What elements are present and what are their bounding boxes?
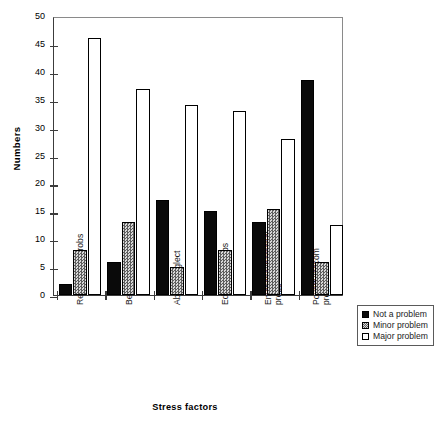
bar — [59, 284, 73, 295]
legend-item: Minor problem — [362, 321, 428, 330]
legend-swatch-icon — [362, 311, 369, 318]
legend-label: Major problem — [373, 332, 428, 341]
y-tick-mark — [50, 269, 58, 270]
bar — [233, 111, 247, 295]
y-tick-label: 5 — [21, 263, 45, 272]
bar — [281, 139, 295, 295]
y-tick-label: 10 — [21, 235, 45, 244]
bar — [73, 250, 87, 295]
y-tick-mark — [50, 241, 58, 242]
y-tick-label: 25 — [21, 152, 45, 161]
bar — [107, 262, 121, 295]
legend-item: Major problem — [362, 332, 428, 341]
bar — [267, 209, 281, 295]
y-tick-label: 45 — [21, 40, 45, 49]
y-tick-label: 35 — [21, 96, 45, 105]
legend-label: Not a problem — [373, 310, 427, 319]
legend-swatch-icon — [362, 333, 369, 340]
y-tick-mark — [50, 185, 58, 186]
x-axis-title: Stress factors — [0, 402, 370, 412]
bar — [252, 222, 266, 295]
legend-swatch-icon — [362, 322, 369, 329]
y-tick-mark — [50, 158, 58, 159]
bar — [218, 250, 232, 295]
y-tick-mark — [50, 130, 58, 131]
chart-legend: Not a problemMinor problemMajor problem — [357, 305, 434, 346]
y-tick-label: 40 — [21, 68, 45, 77]
y-tick-label: 50 — [21, 12, 45, 21]
y-tick-label: 0 — [21, 291, 45, 300]
y-tick-mark — [50, 213, 58, 214]
y-tick-label: 15 — [21, 207, 45, 216]
y-tick-label: 20 — [21, 179, 45, 188]
bar — [330, 225, 344, 295]
legend-item: Not a problem — [362, 310, 428, 319]
plot-area — [53, 17, 343, 296]
bar — [122, 222, 136, 295]
legend-label: Minor problem — [373, 321, 428, 330]
y-tick-mark — [50, 74, 58, 75]
y-tick-mark — [50, 46, 58, 47]
bar-chart: Numbers 05101520253035404550 Relationshi… — [0, 0, 446, 426]
bar — [204, 211, 218, 295]
y-tick-label: 30 — [21, 124, 45, 133]
bar — [315, 262, 329, 295]
bar — [170, 267, 184, 295]
bar — [301, 80, 315, 295]
bar — [185, 105, 199, 295]
bar — [136, 89, 150, 295]
y-tick-mark — [50, 102, 58, 103]
y-axis-title: Numbers — [11, 113, 22, 185]
bar — [156, 200, 170, 295]
bar — [88, 38, 102, 295]
